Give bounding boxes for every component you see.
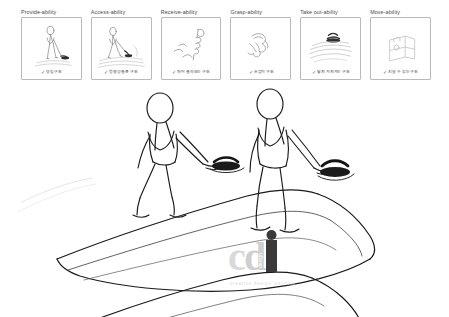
recessed-handle-right-shape — [318, 161, 354, 181]
check-icon: ✓ — [312, 70, 316, 75]
check-icon: ✓ — [41, 70, 45, 75]
panel-caption-text: 달져 가져가는 구조 — [317, 69, 350, 75]
panel-title: Receive-ability — [161, 8, 222, 17]
panel-box[interactable]: ✓ 지닐 수 있는 구조 — [370, 17, 431, 80]
panel-caption: ✓ 달져 가져가는 구조 — [312, 69, 350, 79]
panel-title: Grasp-ability — [230, 8, 291, 17]
concept-panel-receive-ability[interactable]: Receive-ability ✓ 퍼어 올라오는 구조 — [161, 8, 222, 80]
check-icon: ✓ — [248, 70, 252, 75]
recessed-handle-left-shape — [210, 158, 244, 173]
panel-caption: ✓ 지닐 수 있는 구조 — [383, 69, 418, 79]
panel-box[interactable]: ✓ 방향성을 준 구조 — [91, 17, 152, 80]
concept-panel-move-ability[interactable]: Move-ability ✓ 지닐 수 있는 구조 — [370, 8, 431, 80]
panel-title: Take out-ability — [300, 8, 361, 17]
panel-title: Access-ability — [91, 8, 152, 17]
concept-panel-access-ability[interactable]: Access-ability — [91, 8, 152, 80]
panel-caption: ✓ 손잡이 구조 — [248, 69, 273, 79]
concept-panel-strip: Provide-ability — [21, 8, 431, 80]
concept-panel-grasp-ability[interactable]: Grasp-ability ✓ 손잡이 구조 — [230, 8, 291, 80]
panel-box[interactable]: ✓ 당김 구조 — [21, 17, 82, 80]
check-icon: ✓ — [383, 70, 387, 75]
concept-panel-take-out-ability[interactable]: Take out-ability ✓ 달져 가져가는 구조 — [300, 8, 361, 80]
panel-caption-text: 지닐 수 있는 구조 — [388, 69, 418, 75]
panel-box[interactable]: ✓ 달져 가져가는 구조 — [300, 17, 361, 80]
panel-caption-text: 방향성을 준 구조 — [109, 69, 138, 75]
panel-caption-text: 퍼어 올라오는 구조 — [177, 69, 210, 75]
main-perspective-sketch — [0, 84, 449, 317]
panel-caption: ✓ 방향성을 준 구조 — [104, 69, 138, 79]
panel-caption-text: 당김 구조 — [46, 69, 62, 75]
panel-caption: ✓ 당김 구조 — [41, 69, 63, 79]
panel-box[interactable]: ✓ 퍼어 올라오는 구조 — [161, 17, 222, 80]
check-icon: ✓ — [172, 70, 176, 75]
panel-box[interactable]: ✓ 손잡이 구조 — [230, 17, 291, 80]
concept-panel-provide-ability[interactable]: Provide-ability — [21, 8, 82, 80]
panel-caption: ✓ 퍼어 올라오는 구조 — [172, 69, 210, 79]
panel-title: Provide-ability — [21, 8, 82, 17]
panel-caption-text: 손잡이 구조 — [253, 69, 273, 75]
panel-title: Move-ability — [370, 8, 431, 17]
check-icon: ✓ — [104, 70, 108, 75]
